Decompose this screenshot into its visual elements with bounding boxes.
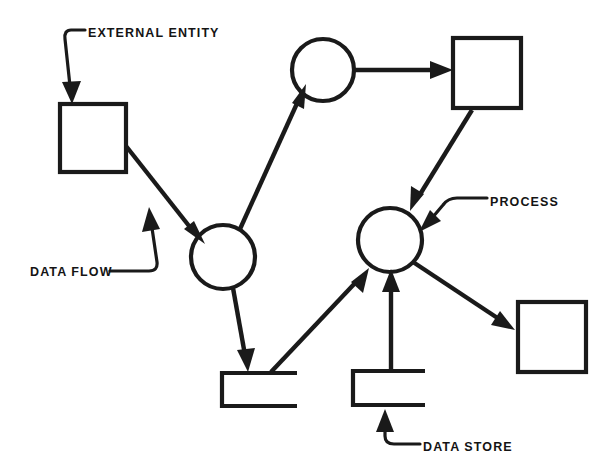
external-entity-box[interactable] — [60, 104, 126, 172]
flow-entitytr-to-process2[interactable] — [410, 110, 472, 211]
callout-label-external-entity: EXTERNAL ENTITY — [88, 26, 220, 40]
diagram-canvas: EXTERNAL ENTITY DATA FLOW PROCESS DATA S… — [0, 0, 612, 471]
process-2[interactable] — [358, 208, 422, 272]
callout-label-process: PROCESS — [490, 195, 559, 209]
callout-label-data-store: DATA STORE — [423, 440, 513, 454]
flow-entity-to-process1[interactable] — [126, 146, 205, 244]
entity-bottom-right[interactable] — [518, 302, 586, 372]
callout-leader-process — [419, 198, 487, 232]
arrow-head-icon — [376, 409, 394, 432]
data-store-right[interactable] — [353, 371, 425, 405]
arrow-head-icon — [62, 81, 81, 104]
arrow-head-icon — [430, 61, 453, 79]
process-1[interactable] — [191, 225, 255, 289]
entity-top-right[interactable] — [453, 38, 521, 108]
flow-storeright-to-process2[interactable] — [382, 269, 400, 371]
flow-process1-to-processtop[interactable] — [240, 84, 306, 229]
arrow-head-icon — [142, 207, 160, 232]
data-flow-diagram: EXTERNAL ENTITY DATA FLOW PROCESS DATA S… — [0, 0, 612, 471]
callout-label-data-flow: DATA FLOW — [30, 265, 113, 279]
flow-process2-to-entitybr[interactable] — [413, 262, 515, 330]
callout-leader-data-flow — [110, 207, 160, 271]
flow-process1-to-storeleft[interactable] — [233, 288, 255, 372]
arrow-head-icon — [351, 268, 369, 293]
arrow-head-icon — [237, 348, 255, 372]
data-store-left[interactable] — [222, 373, 297, 406]
flow-storeleft-to-process2[interactable] — [271, 268, 369, 372]
callout-leader-external-entity — [62, 30, 85, 104]
callout-leader-data-store — [376, 409, 420, 444]
flow-processtop-to-entitytr[interactable] — [355, 61, 453, 79]
